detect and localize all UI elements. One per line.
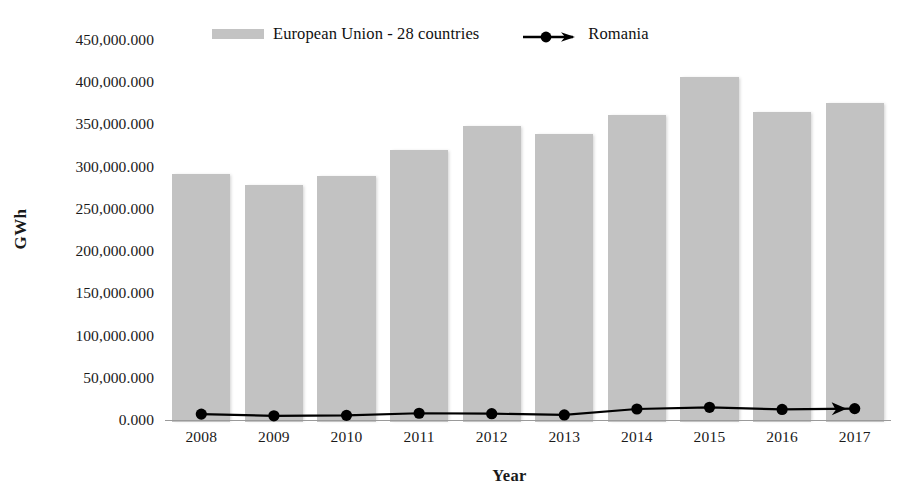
x-axis-tick-label: 2013 <box>548 428 580 446</box>
x-axis-tick-label: 2014 <box>621 428 653 446</box>
x-axis-tick-label: 2011 <box>403 428 434 446</box>
x-axis-tick-label: 2015 <box>694 428 726 446</box>
x-axis-tick-label: 2012 <box>476 428 508 446</box>
x-axis-title: Year <box>0 466 904 486</box>
x-axis-tick-label: 2009 <box>258 428 290 446</box>
x-axis-tick-label: 2017 <box>839 428 871 446</box>
x-axis-tick-label: 2016 <box>766 428 798 446</box>
x-axis-tick-labels: 2008200920102011201220132014201520162017 <box>0 0 904 498</box>
x-axis-tick-label: 2010 <box>331 428 363 446</box>
chart-figure: European Union - 28 countries Romania GW… <box>0 0 904 498</box>
x-axis-title-text: Year <box>492 466 527 485</box>
x-axis-tick-label: 2008 <box>185 428 217 446</box>
